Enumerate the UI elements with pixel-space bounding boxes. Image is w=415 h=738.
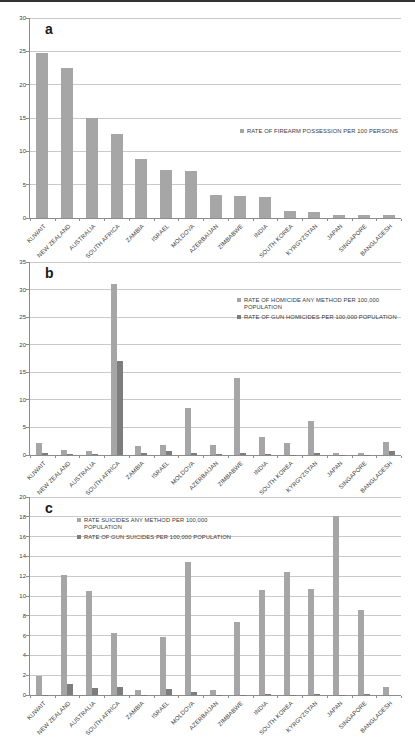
x-tick-mark bbox=[55, 696, 56, 698]
panel-label: c bbox=[45, 500, 53, 516]
panel-label: b bbox=[45, 265, 54, 281]
legend-swatch-icon bbox=[237, 315, 241, 319]
bar-s1-kyrgyzstan bbox=[314, 453, 320, 455]
x-tick-mark bbox=[401, 456, 402, 458]
x-tick-mark bbox=[178, 456, 179, 458]
bar-s0-australia bbox=[86, 591, 92, 695]
y-tick-label: 4 bbox=[0, 651, 26, 659]
bar-s1-india bbox=[265, 454, 271, 455]
legend-item: RATE OF HOMICIDE ANY METHOD PER 100,000P… bbox=[237, 297, 397, 311]
bar-s1-singapore bbox=[364, 694, 370, 695]
bar-s0-south-africa bbox=[111, 134, 123, 218]
y-tick-label: 16 bbox=[0, 533, 26, 541]
y-axis bbox=[29, 262, 30, 455]
x-tick-mark bbox=[154, 696, 155, 698]
x-tick-mark bbox=[376, 456, 377, 458]
bar-s0-bangladesh bbox=[383, 215, 395, 218]
x-tick-mark bbox=[30, 696, 31, 698]
bar-s1-moldova bbox=[191, 453, 197, 455]
legend-item: RATE OF FIREARM POSSESSION PER 100 PERSO… bbox=[240, 128, 398, 135]
bar-s0-israel bbox=[160, 170, 172, 218]
y-tick-label: 6 bbox=[0, 632, 26, 640]
x-axis-label: ISRAEL bbox=[151, 223, 171, 243]
legend: RATE SUICIDES ANY METHOD PER 100,000POPU… bbox=[77, 517, 231, 544]
x-tick-mark bbox=[129, 456, 130, 458]
legend-label: RATE SUICIDES ANY METHOD PER 100,000POPU… bbox=[84, 517, 208, 531]
legend-swatch-icon bbox=[77, 535, 81, 539]
bar-s1-moldova bbox=[191, 692, 197, 695]
gridline bbox=[30, 344, 401, 345]
x-axis bbox=[30, 695, 401, 696]
x-axis bbox=[30, 218, 401, 219]
bar-s0-singapore bbox=[358, 610, 364, 695]
x-axis-label: ZAMBIA bbox=[125, 223, 146, 244]
legend: RATE OF FIREARM POSSESSION PER 100 PERSO… bbox=[240, 128, 398, 138]
x-axis-label: ZIMBABWE bbox=[217, 700, 245, 728]
bar-s1-azerbaijan bbox=[216, 695, 222, 696]
bar-s1-kuwait bbox=[42, 695, 48, 696]
x-axis-label: KUWAIT bbox=[26, 223, 48, 245]
x-tick-mark bbox=[129, 219, 130, 221]
bar-s0-new-zealand bbox=[61, 68, 73, 218]
legend-label: RATE OF GUN HOMICIDES PER 100,000 POPULA… bbox=[244, 314, 397, 321]
x-tick-mark bbox=[253, 219, 254, 221]
gridline bbox=[30, 84, 401, 85]
x-tick-mark bbox=[203, 696, 204, 698]
y-tick-label: 15 bbox=[0, 114, 26, 122]
x-axis-label: ZAMBIA bbox=[125, 700, 146, 721]
x-tick-mark bbox=[352, 696, 353, 698]
x-tick-mark bbox=[228, 456, 229, 458]
x-tick-mark bbox=[79, 456, 80, 458]
legend-item: RATE OF GUN SUICIDES PER 100,000 POPULAT… bbox=[77, 534, 231, 541]
legend: RATE OF HOMICIDE ANY METHOD PER 100,000P… bbox=[237, 297, 397, 324]
bar-s0-israel bbox=[160, 637, 166, 695]
bar-s1-south-korea bbox=[290, 455, 296, 456]
x-axis-label: JAPAN bbox=[325, 223, 344, 242]
x-tick-mark bbox=[228, 219, 229, 221]
x-tick-mark bbox=[302, 696, 303, 698]
bar-s1-new-zealand bbox=[67, 454, 73, 455]
gridline bbox=[30, 399, 401, 400]
x-tick-mark bbox=[376, 219, 377, 221]
bar-s0-moldova bbox=[185, 408, 191, 455]
x-tick-mark bbox=[228, 696, 229, 698]
bar-s0-australia bbox=[86, 118, 98, 218]
bar-s0-japan bbox=[333, 516, 339, 695]
x-axis-label: ZIMBABWE bbox=[217, 223, 245, 251]
x-axis bbox=[30, 455, 401, 456]
x-tick-mark bbox=[401, 696, 402, 698]
x-tick-mark bbox=[55, 456, 56, 458]
bar-s0-kyrgyzstan bbox=[308, 589, 314, 695]
bar-s1-japan bbox=[339, 455, 345, 456]
y-tick-label: 0 bbox=[0, 451, 26, 459]
x-tick-mark bbox=[104, 456, 105, 458]
x-tick-mark bbox=[253, 696, 254, 698]
x-tick-mark bbox=[55, 219, 56, 221]
legend-label: RATE OF HOMICIDE ANY METHOD PER 100,000P… bbox=[244, 297, 379, 311]
y-tick-label: 10 bbox=[0, 396, 26, 404]
bar-s0-azerbaijan bbox=[210, 445, 216, 455]
x-tick-mark bbox=[104, 696, 105, 698]
y-tick-label: 0 bbox=[0, 214, 26, 222]
bar-s0-moldova bbox=[185, 171, 197, 218]
y-tick-label: 10 bbox=[0, 147, 26, 155]
bar-s0-kyrgyzstan bbox=[308, 212, 320, 218]
x-tick-mark bbox=[327, 696, 328, 698]
bar-s1-singapore bbox=[364, 455, 370, 456]
gridline bbox=[30, 372, 401, 373]
legend-swatch-icon bbox=[237, 298, 241, 302]
gridline bbox=[30, 262, 401, 263]
y-tick-label: 30 bbox=[0, 286, 26, 294]
x-tick-mark bbox=[203, 219, 204, 221]
y-tick-label: 15 bbox=[0, 368, 26, 376]
bar-s0-zimbabwe bbox=[234, 196, 246, 218]
x-tick-mark bbox=[327, 219, 328, 221]
bar-s0-japan bbox=[333, 215, 345, 218]
x-tick-mark bbox=[376, 696, 377, 698]
y-tick-label: 8 bbox=[0, 612, 26, 620]
x-tick-mark bbox=[277, 696, 278, 698]
bar-s1-zambia bbox=[141, 695, 147, 696]
bar-s1-azerbaijan bbox=[216, 454, 222, 455]
bar-s0-bangladesh bbox=[383, 687, 389, 695]
gridline bbox=[30, 576, 401, 577]
